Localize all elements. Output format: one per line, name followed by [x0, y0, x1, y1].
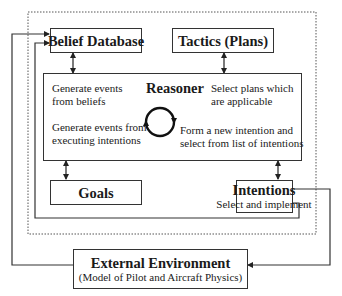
- intentions-subtitle: Select and implement: [216, 198, 311, 211]
- intentions-content: Intentions Select and implement: [214, 180, 314, 213]
- intentions-title: Intentions: [233, 182, 296, 198]
- belief-database-title: Belief Database: [48, 33, 144, 49]
- reasoner-text-generate-from-intentions: Generate events from executing intention…: [52, 121, 147, 147]
- goals-box[interactable]: Goals: [50, 180, 142, 205]
- reasoner-title: Reasoner: [146, 80, 204, 97]
- reasoner-text-generate-from-beliefs: Generate events from beliefs: [52, 82, 123, 108]
- external-environment-box[interactable]: External Environment (Model of Pilot and…: [73, 249, 248, 289]
- external-environment-title: External Environment: [91, 255, 231, 271]
- external-environment-subtitle: (Model of Pilot and Aircraft Physics): [79, 271, 242, 284]
- tactics-box[interactable]: Tactics (Plans): [172, 28, 274, 53]
- tactics-title: Tactics (Plans): [178, 33, 268, 49]
- goals-title: Goals: [78, 185, 113, 201]
- belief-database-box[interactable]: Belief Database: [50, 28, 142, 53]
- reasoner-text-form-intention: Form a new intention and select from lis…: [180, 124, 303, 150]
- reasoner-text-select-plans: Select plans which are applicable: [211, 82, 293, 108]
